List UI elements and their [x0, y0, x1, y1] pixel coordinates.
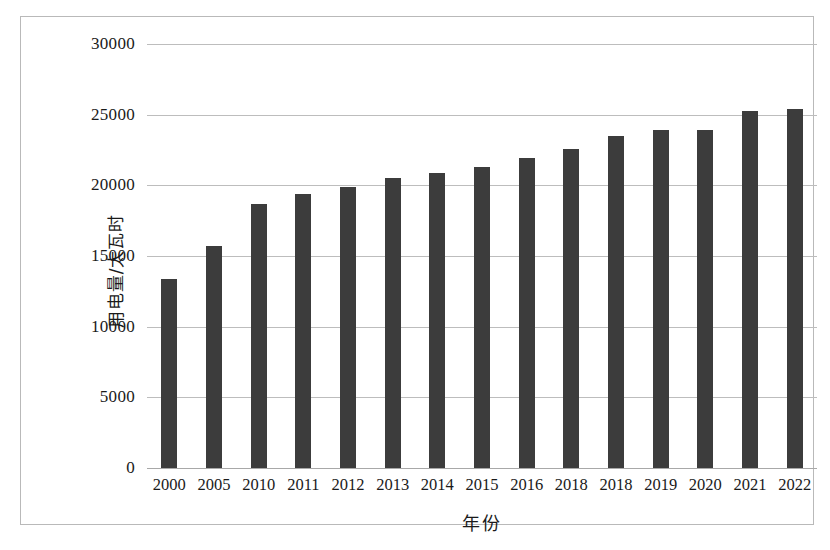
x-tick-label: 2019 — [644, 475, 677, 495]
x-tick-label: 2016 — [510, 475, 543, 495]
bar — [697, 130, 713, 468]
bar — [608, 136, 624, 468]
bar — [206, 246, 222, 468]
bar-group: 2021 — [728, 44, 773, 468]
bar-group: 2014 — [415, 44, 460, 468]
bar-group: 2018 — [549, 44, 594, 468]
x-tick-label: 2020 — [689, 475, 722, 495]
bar-group: 2019 — [638, 44, 683, 468]
chart-figure: 用电量/太瓦时 050001000015000200002500030000 2… — [0, 0, 830, 550]
x-axis-title: 年份 — [147, 509, 817, 535]
x-tick-label: 2022 — [778, 475, 811, 495]
x-tick-label: 2018 — [599, 475, 632, 495]
bar — [251, 204, 267, 468]
bar-group: 2012 — [326, 44, 371, 468]
bar-group: 2022 — [772, 44, 817, 468]
bar — [385, 178, 401, 468]
y-tick-label: 0 — [126, 458, 135, 478]
bar-group: 2013 — [370, 44, 415, 468]
bar-group: 2005 — [192, 44, 237, 468]
y-tick-label: 5000 — [100, 387, 135, 407]
bar-group: 2018 — [594, 44, 639, 468]
x-tick-label: 2018 — [555, 475, 588, 495]
bar — [742, 111, 758, 468]
x-tick-label: 2021 — [733, 475, 766, 495]
bar — [787, 109, 803, 468]
bar — [519, 158, 535, 468]
y-tick-label: 25000 — [91, 105, 135, 125]
y-tick-label: 30000 — [91, 34, 135, 54]
bar — [161, 279, 177, 468]
x-tick-label: 2013 — [376, 475, 409, 495]
x-tick-label: 2000 — [153, 475, 186, 495]
y-tick-label: 20000 — [91, 175, 135, 195]
bar — [429, 173, 445, 468]
x-tick-label: 2011 — [287, 475, 319, 495]
x-tick-label: 2010 — [242, 475, 275, 495]
x-tick-label: 2014 — [421, 475, 454, 495]
bar-group: 2000 — [147, 44, 192, 468]
bar — [295, 194, 311, 468]
x-tick-label: 2015 — [465, 475, 498, 495]
bar-group: 2016 — [504, 44, 549, 468]
y-tick-label: 10000 — [91, 317, 135, 337]
bar-group: 2020 — [683, 44, 728, 468]
x-tick-label: 2005 — [197, 475, 230, 495]
plot-area: 050001000015000200002500030000 200020052… — [147, 44, 817, 468]
bar-group: 2011 — [281, 44, 326, 468]
y-tick-label: 15000 — [91, 246, 135, 266]
bar — [563, 149, 579, 468]
x-tick-label: 2012 — [331, 475, 364, 495]
chart-border: 用电量/太瓦时 050001000015000200002500030000 2… — [20, 16, 814, 525]
bars-layer: 2000200520102011201220132014201520162018… — [147, 44, 817, 468]
y-axis-title: 用电量/太瓦时 — [102, 213, 127, 328]
bar — [340, 187, 356, 468]
bar-group: 2015 — [460, 44, 505, 468]
gridline-0: 0 — [147, 468, 817, 469]
bar — [474, 167, 490, 468]
bar-group: 2010 — [236, 44, 281, 468]
bar — [653, 130, 669, 468]
